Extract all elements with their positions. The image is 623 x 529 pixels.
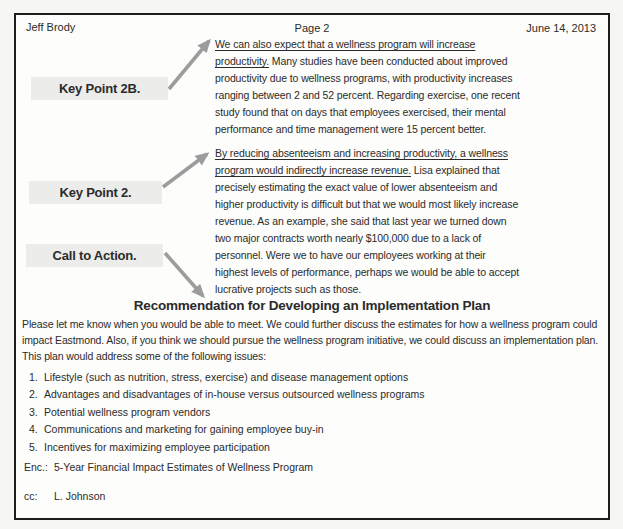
list-item-text: Communications and marketing for gaining… (44, 421, 324, 438)
list-item: 1. Lifestyle (such as nutrition, stress,… (29, 369, 425, 386)
page-header: Jeff Brody Page 2 June 14, 2013 (16, 21, 608, 37)
list-item-text: Potential wellness program vendors (44, 404, 210, 421)
letter-page-content: Jeff Brody Page 2 June 14, 2013 Key Poin… (16, 15, 608, 518)
list-item-number: 1. (29, 369, 44, 386)
header-date: June 14, 2013 (526, 22, 596, 34)
paragraph-body-text: Many studies have been conducted about i… (215, 55, 520, 135)
enclosure-label: Enc.: (24, 460, 54, 474)
enclosure-text: 5-Year Financial Impact Estimates of Wel… (54, 460, 313, 474)
callout-key-point-2b: Key Point 2B. (31, 77, 168, 100)
closing-paragraph: Please let me know when you would be abl… (22, 316, 598, 364)
list-item-number: 5. (29, 439, 44, 456)
list-item-number: 3. (29, 404, 44, 421)
list-item-text: Incentives for maximizing employee parti… (44, 439, 270, 456)
callout-label: Key Point 2. (59, 185, 131, 200)
call-to-action-arrow-icon (165, 253, 203, 296)
callout-label: Call to Action. (53, 248, 137, 263)
list-item-number: 2. (29, 386, 44, 403)
paragraph-body-text: Lisa explained that precisely estimating… (215, 164, 519, 295)
issues-list: 1. Lifestyle (such as nutrition, stress,… (29, 369, 425, 456)
key-point-2-arrow-icon (163, 154, 207, 187)
key-point-2b-arrow-icon (169, 41, 209, 89)
recommendation-heading: Recommendation for Developing an Impleme… (16, 298, 608, 313)
list-item: 4. Communications and marketing for gain… (29, 421, 425, 438)
cc-line: cc: L. Johnson (24, 489, 105, 503)
cc-text: L. Johnson (54, 489, 105, 503)
cc-label: cc: (24, 489, 54, 503)
enclosure-line: Enc.: 5-Year Financial Impact Estimates … (24, 460, 313, 474)
paragraph-key-point-2: By reducing absenteeism and increasing p… (215, 145, 519, 298)
letter-page: Jeff Brody Page 2 June 14, 2013 Key Poin… (14, 13, 610, 520)
list-item-number: 4. (29, 421, 44, 438)
figure-canvas: Jeff Brody Page 2 June 14, 2013 Key Poin… (0, 0, 623, 529)
list-item-text: Advantages and disadvantages of in-house… (44, 386, 425, 403)
list-item: 3. Potential wellness program vendors (29, 404, 425, 421)
callout-call-to-action: Call to Action. (26, 244, 163, 267)
callout-key-point-2: Key Point 2. (29, 181, 162, 204)
paragraph-key-point-2b: We can also expect that a wellness progr… (215, 36, 520, 138)
list-item: 5. Incentives for maximizing employee pa… (29, 439, 425, 456)
callout-label: Key Point 2B. (59, 81, 140, 96)
header-page-number: Page 2 (16, 22, 608, 34)
list-item-text: Lifestyle (such as nutrition, stress, ex… (44, 369, 408, 386)
list-item: 2. Advantages and disadvantages of in-ho… (29, 386, 425, 403)
